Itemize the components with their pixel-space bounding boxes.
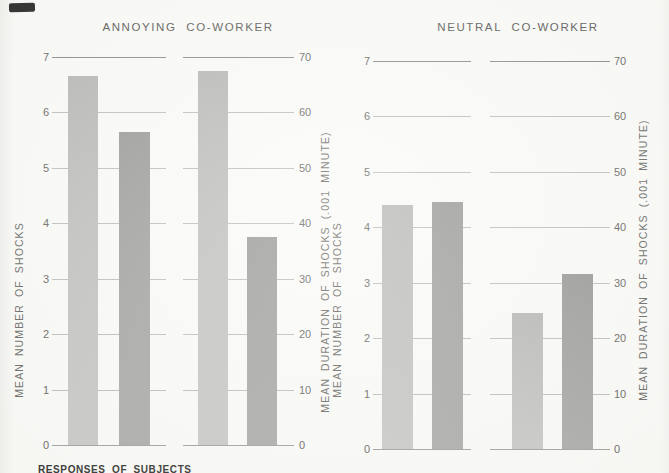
- left-axis-label: MEAN NUMBER OF SHOCKS: [13, 222, 25, 398]
- right-axis-tick-label: 70: [614, 56, 644, 67]
- left-axis-label: MEAN NUMBER OF SHOCKS: [331, 222, 343, 398]
- left-axis-tick-label: 5: [19, 162, 49, 173]
- bar-duration-of-shocks-light: [512, 313, 543, 449]
- left-axis-tick-label: 0: [340, 444, 370, 455]
- bar-duration-of-shocks-dark: [562, 274, 593, 449]
- gridline: [490, 227, 610, 228]
- bar-number-of-shocks-light: [382, 205, 413, 449]
- right-axis-tick-label: 70: [299, 52, 329, 63]
- gridline: [373, 449, 471, 450]
- scan-smudge-artifact: [9, 3, 35, 12]
- left-axis-tick-label: 3: [340, 277, 370, 288]
- gridline: [490, 449, 610, 450]
- bar-number-of-shocks-dark: [432, 202, 463, 449]
- dual-bar-chart-figure: ANNOYING CO-WORKER0123456701020304050607…: [0, 0, 669, 473]
- gridline: [52, 57, 166, 58]
- figure-caption: RESPONSES OF SUBJECTS: [38, 464, 192, 473]
- left-axis-tick-label: 4: [340, 222, 370, 233]
- bar-number-of-shocks-light: [68, 76, 98, 445]
- gridline: [490, 116, 610, 117]
- right-axis-label: MEAN DURATION OF SHOCKS (.001 MINUTE): [319, 131, 331, 412]
- left-axis-tick-label: 5: [340, 166, 370, 177]
- gridline: [183, 445, 294, 446]
- left-axis-tick-label: 0: [19, 440, 49, 451]
- gridline: [183, 57, 294, 58]
- right-axis-label: MEAN DURATION OF SHOCKS (.001 MINUTE): [637, 119, 649, 400]
- chart-title: ANNOYING CO-WORKER: [102, 21, 273, 33]
- left-axis-tick-label: 7: [19, 52, 49, 63]
- gridline: [490, 61, 610, 62]
- left-axis-tick-label: 6: [340, 111, 370, 122]
- left-axis-tick-label: 2: [340, 333, 370, 344]
- left-axis-tick-label: 1: [340, 388, 370, 399]
- bar-number-of-shocks-dark: [119, 132, 150, 445]
- gridline: [373, 116, 471, 117]
- left-axis-tick-label: 7: [340, 56, 370, 67]
- left-axis-tick-label: 6: [19, 107, 49, 118]
- bar-duration-of-shocks-dark: [247, 237, 277, 445]
- chart-title: NEUTRAL CO-WORKER: [437, 21, 598, 33]
- right-axis-tick-label: 0: [299, 440, 329, 451]
- gridline: [490, 172, 610, 173]
- gridline: [52, 445, 166, 446]
- bar-duration-of-shocks-light: [198, 71, 228, 445]
- gridline: [373, 61, 471, 62]
- right-axis-tick-label: 0: [614, 444, 644, 455]
- gridline: [373, 172, 471, 173]
- right-axis-tick-label: 60: [299, 107, 329, 118]
